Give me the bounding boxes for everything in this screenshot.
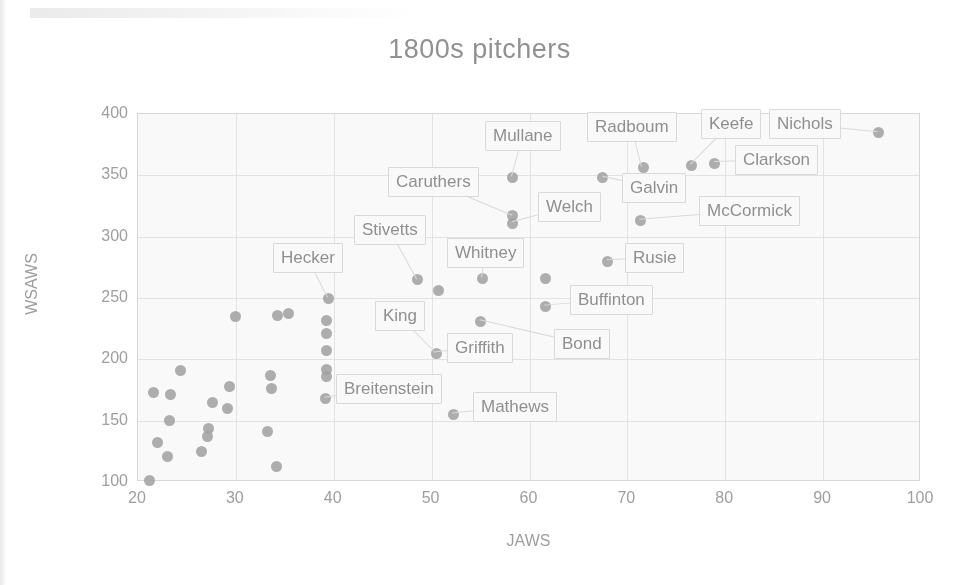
x-tick-label: 70 xyxy=(596,489,656,507)
data-point[interactable] xyxy=(321,328,332,339)
x-tick-label: 30 xyxy=(205,489,265,507)
data-point[interactable] xyxy=(148,387,159,398)
scan-edge-shading xyxy=(0,0,6,585)
callout-label-rusie[interactable]: Rusie xyxy=(625,243,684,273)
y-axis-ticks: 100150200250300350400 xyxy=(64,113,128,481)
callout-label-bond[interactable]: Bond xyxy=(554,329,610,359)
data-point[interactable] xyxy=(207,397,218,408)
callout-label-hecker[interactable]: Hecker xyxy=(273,243,343,273)
y-tick-label: 350 xyxy=(72,165,128,183)
data-point[interactable] xyxy=(222,403,233,414)
callout-label-whitney[interactable]: Whitney xyxy=(447,238,524,268)
callout-label-mullane[interactable]: Mullane xyxy=(485,121,561,151)
x-tick-label: 40 xyxy=(303,489,363,507)
data-point-mullane[interactable] xyxy=(507,172,518,183)
callout-label-keefe[interactable]: Keefe xyxy=(701,109,761,139)
data-point[interactable] xyxy=(321,315,332,326)
data-point-whitney[interactable] xyxy=(477,273,488,284)
data-point[interactable] xyxy=(164,415,175,426)
data-point[interactable] xyxy=(202,431,213,442)
y-axis-title: WSAWS xyxy=(23,224,41,344)
y-tick-label: 400 xyxy=(72,104,128,122)
data-point[interactable] xyxy=(152,437,163,448)
x-tick-label: 80 xyxy=(694,489,754,507)
data-point-radboum[interactable] xyxy=(638,162,649,173)
gridline-horizontal xyxy=(138,298,919,299)
data-point[interactable] xyxy=(540,273,551,284)
y-tick-label: 300 xyxy=(72,227,128,245)
data-point[interactable] xyxy=(196,446,207,457)
data-point-breitenstein[interactable] xyxy=(320,393,331,404)
callout-label-welch[interactable]: Welch xyxy=(538,192,601,222)
callout-label-mccormick[interactable]: McCormick xyxy=(699,196,800,226)
scatter-chart: 1800s pitchers 100150200250300350400 203… xyxy=(0,0,959,585)
callout-label-galvin[interactable]: Galvin xyxy=(622,173,686,203)
x-tick-label: 60 xyxy=(499,489,559,507)
callout-label-buffinton[interactable]: Buffinton xyxy=(570,285,653,315)
data-point[interactable] xyxy=(175,365,186,376)
gridline-vertical xyxy=(236,114,237,480)
data-point[interactable] xyxy=(162,451,173,462)
y-tick-label: 100 xyxy=(72,472,128,490)
x-tick-label: 50 xyxy=(401,489,461,507)
data-point-nichols[interactable] xyxy=(873,127,884,138)
data-point-mccormick[interactable] xyxy=(635,215,646,226)
callout-label-caruthers[interactable]: Caruthers xyxy=(388,167,479,197)
callout-label-king[interactable]: King xyxy=(375,301,425,331)
callout-label-mathews[interactable]: Mathews xyxy=(473,392,557,422)
y-tick-label: 250 xyxy=(72,288,128,306)
data-point[interactable] xyxy=(262,426,273,437)
data-point[interactable] xyxy=(321,371,332,382)
x-axis-ticks: 2030405060708090100 xyxy=(137,481,920,521)
x-tick-label: 20 xyxy=(107,489,167,507)
data-point[interactable] xyxy=(224,381,235,392)
data-point[interactable] xyxy=(271,461,282,472)
callout-label-griffith[interactable]: Griffith xyxy=(447,333,513,363)
y-tick-label: 150 xyxy=(72,411,128,429)
gridline-vertical xyxy=(530,114,531,480)
data-point[interactable] xyxy=(321,345,332,356)
y-tick-label: 200 xyxy=(72,349,128,367)
data-point[interactable] xyxy=(265,370,276,381)
callout-label-radboum[interactable]: Radboum xyxy=(587,112,677,142)
x-tick-label: 100 xyxy=(890,489,950,507)
x-tick-label: 90 xyxy=(792,489,852,507)
gridline-vertical xyxy=(725,114,726,480)
callout-label-breitenstein[interactable]: Breitenstein xyxy=(336,374,442,404)
callout-label-stivetts[interactable]: Stivetts xyxy=(354,215,426,245)
gridline-horizontal xyxy=(138,237,919,238)
scan-smudge xyxy=(30,8,590,18)
callout-label-clarkson[interactable]: Clarkson xyxy=(735,145,818,175)
data-point[interactable] xyxy=(272,310,283,321)
data-point[interactable] xyxy=(433,285,444,296)
data-point-clarkson[interactable] xyxy=(709,158,720,169)
chart-title: 1800s pitchers xyxy=(0,34,959,65)
gridline-horizontal xyxy=(138,175,919,176)
gridline-vertical xyxy=(823,114,824,480)
data-point[interactable] xyxy=(283,308,294,319)
gridline-horizontal xyxy=(138,359,919,360)
data-point-buffinton[interactable] xyxy=(540,301,551,312)
x-axis-title: JAWS xyxy=(137,532,920,550)
data-point[interactable] xyxy=(230,311,241,322)
data-point[interactable] xyxy=(266,383,277,394)
data-point-mathews[interactable] xyxy=(448,409,459,420)
data-point-rusie[interactable] xyxy=(602,256,613,267)
data-point[interactable] xyxy=(165,389,176,400)
callout-label-nichols[interactable]: Nichols xyxy=(769,109,841,139)
